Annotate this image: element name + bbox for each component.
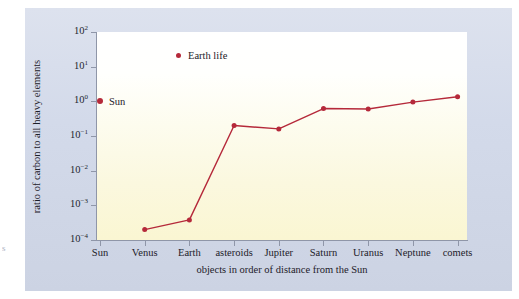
- sun-point-label: Sun: [109, 96, 125, 107]
- y-axis-title: ratio of carbon to all heavy elements: [31, 52, 42, 222]
- legend-marker-icon: [176, 53, 181, 58]
- x-axis-title: objects in order of distance from the Su…: [96, 264, 468, 275]
- x-axis-tick: [100, 241, 101, 246]
- y-axis-tick-label: 10−1: [70, 129, 88, 140]
- x-axis-tick: [323, 241, 324, 246]
- x-axis-tick-label: Uranus: [353, 247, 383, 258]
- x-axis-tick-label: asteroids: [215, 247, 252, 258]
- y-axis-tick-label: 101: [74, 60, 88, 71]
- y-axis-tick: [91, 171, 96, 172]
- chart-legend: Earth life: [176, 50, 227, 61]
- x-axis-tick-label: Jupiter: [264, 247, 293, 258]
- y-axis-line: [96, 32, 97, 241]
- x-axis-tick-label: Saturn: [310, 247, 337, 258]
- x-axis-tick-label: Neptune: [395, 247, 431, 258]
- y-axis-tick-label: 10−2: [70, 164, 88, 175]
- y-axis-tick-label: 102: [74, 25, 88, 36]
- x-axis-tick-label: Earth: [178, 247, 201, 258]
- plot-area: [96, 32, 467, 240]
- x-axis-tick: [279, 241, 280, 246]
- y-axis-tick: [91, 101, 96, 102]
- figure-root: s 10210110010−110−210−310−4 SunVenusEart…: [0, 0, 519, 299]
- x-axis-tick-label: Sun: [92, 247, 108, 258]
- legend-item-label: Earth life: [188, 50, 227, 61]
- y-axis-tick-label: 100: [74, 94, 88, 105]
- x-axis-tick: [234, 241, 235, 246]
- sun-data-point: [97, 98, 103, 104]
- y-axis-tick-label: 10−4: [70, 233, 88, 244]
- x-axis-tick: [458, 241, 459, 246]
- x-axis-tick: [189, 241, 190, 246]
- y-axis-tick-label: 10−3: [70, 198, 88, 209]
- y-axis-tick: [91, 32, 96, 33]
- x-axis-tick: [145, 241, 146, 246]
- x-axis-tick: [368, 241, 369, 246]
- y-axis-tick: [91, 136, 96, 137]
- y-axis-tick: [91, 240, 96, 241]
- y-axis-tick-labels: 10210110010−110−210−310−4: [55, 0, 88, 299]
- y-axis-tick: [91, 205, 96, 206]
- page-margin-artifact: s: [2, 243, 6, 253]
- y-axis-tick: [91, 67, 96, 68]
- x-axis-tick-label: Venus: [132, 247, 158, 258]
- x-axis-tick-label: comets: [443, 247, 473, 258]
- x-axis-tick: [413, 241, 414, 246]
